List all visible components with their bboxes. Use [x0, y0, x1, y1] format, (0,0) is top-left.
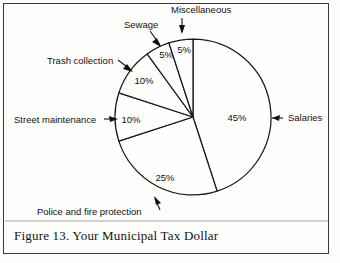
- pie-percent-label-police-and-fire-protection: 25%: [155, 172, 175, 183]
- pie-percent-label-trash-collection: 10%: [134, 75, 154, 86]
- pie-category-label-trash-collection: Trash collection: [47, 55, 113, 66]
- figure-page: 45%25%10%10%5%5% SalariesPolice and fire…: [0, 0, 340, 263]
- figure-caption: Figure 13. Your Municipal Tax Dollar: [14, 228, 218, 244]
- arrow-head-miscellaneous: [179, 25, 185, 34]
- pie-category-label-salaries: Salaries: [288, 112, 323, 123]
- pie-category-label-sewage: Sewage: [124, 19, 158, 30]
- pie-chart-figure: 45%25%10%10%5%5% SalariesPolice and fire…: [0, 0, 340, 263]
- arrow-head-police-fire: [154, 196, 161, 205]
- pie-category-label-miscellaneous: Miscellaneous: [171, 4, 231, 15]
- pie-percent-label-street-maintenance: 10%: [121, 114, 141, 125]
- pie-percent-label-sewage: 5%: [159, 49, 173, 60]
- pie-category-label-street-maintenance: Street maintenance: [14, 114, 96, 125]
- arrow-head-sewage: [152, 38, 161, 47]
- pie-percent-label-miscellaneous: 5%: [177, 44, 191, 55]
- pie-category-label-police-and-fire-protection: Police and fire protection: [37, 206, 142, 217]
- pie-percent-label-salaries: 45%: [227, 112, 247, 123]
- arrow-head-salaries: [272, 115, 280, 121]
